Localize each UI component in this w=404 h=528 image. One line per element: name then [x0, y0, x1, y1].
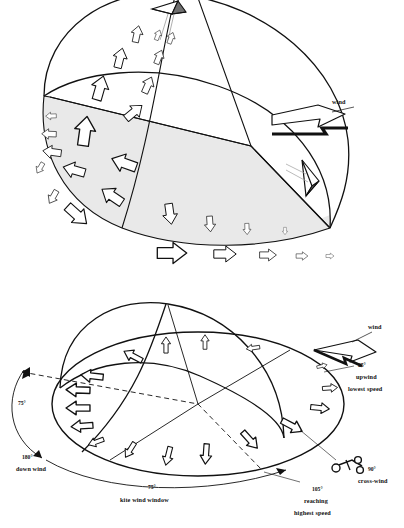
upwind-angle: 25°	[358, 362, 366, 368]
annotation-reaching: 105° reaching highest speed	[294, 486, 331, 516]
top-figure-svg: wind	[0, 0, 404, 280]
bottom-wind-window-figure: wind 25° upwind lowest spe	[0, 280, 404, 528]
speed-gradient-arrow-row	[157, 243, 334, 264]
downwind-line1: down wind	[16, 465, 47, 472]
window-arc-head	[276, 468, 286, 475]
upwind-line2: lowest speed	[348, 385, 383, 392]
window-angle: 75°	[148, 484, 156, 490]
wind-indicator-top	[272, 105, 354, 134]
window-line1: kite wind window	[120, 496, 169, 503]
left-angle-arc	[12, 370, 42, 458]
window-airflow-arrows	[66, 335, 338, 467]
annotation-downwind: 180° down wind	[16, 454, 47, 472]
top-wind-window-figure: wind	[0, 0, 404, 280]
wind-label-bottom: wind	[368, 323, 382, 330]
upwind-line1: upwind	[356, 373, 377, 380]
reaching-angle: 105°	[312, 486, 323, 492]
reaching-line2: highest speed	[294, 509, 331, 516]
bottom-figure-svg: wind 25° upwind lowest spe	[0, 280, 404, 528]
centre-axes	[110, 305, 290, 460]
reaching-line1: reaching	[304, 497, 329, 504]
downwind-angle: 180°	[22, 454, 33, 460]
crosswind-line1: cross-wind	[358, 477, 388, 484]
wind-label-top: wind	[332, 98, 346, 105]
kite-buggy-icon	[332, 457, 363, 474]
left-arc-angle: 75°	[18, 400, 26, 406]
left-arc-head	[33, 450, 42, 458]
downwind-axis-dashed	[22, 372, 262, 470]
wind-indicator-bottom	[314, 332, 376, 366]
annotation-upwind: 25° upwind lowest speed	[348, 362, 383, 392]
crosswind-angle: 90°	[368, 466, 376, 472]
